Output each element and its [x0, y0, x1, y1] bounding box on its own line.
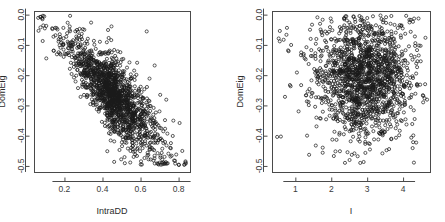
y-tick-label: -0.1: [16, 37, 26, 52]
y-tick-label: 0.0: [16, 8, 26, 20]
x-tick-label: 3: [365, 184, 370, 194]
scatter-panel-intradd: 0.20.40.60.80.0-0.1-0.2-0.3-0.4-0.5Intra…: [0, 0, 222, 222]
x-axis-title: I: [350, 206, 353, 216]
x-tick-label: 0.6: [135, 184, 147, 194]
y-tick-label: -0.2: [254, 68, 264, 83]
x-tick-label: 0.8: [173, 184, 185, 194]
scatter-plot: 0.20.40.60.80.0-0.1-0.2-0.3-0.4-0.5Intra…: [0, 0, 222, 222]
y-tick-label: -0.5: [16, 158, 26, 173]
y-axis-title: DomEig: [0, 75, 7, 107]
y-tick-label: -0.4: [254, 128, 264, 143]
x-axis-title: IntraDD: [96, 206, 128, 216]
x-tick-label: 4: [401, 184, 406, 194]
y-tick-label: -0.3: [254, 98, 264, 113]
x-axis: 1234: [283, 178, 415, 195]
x-tick-label: 2: [329, 184, 334, 194]
y-axis: 0.0-0.1-0.2-0.3-0.4-0.5: [254, 8, 268, 173]
y-tick-label: 0.0: [254, 8, 264, 20]
y-tick-label: -0.4: [16, 128, 26, 143]
y-tick-label: -0.1: [254, 37, 264, 52]
y-tick-label: -0.2: [16, 68, 26, 83]
figure-two-panel-scatter: 0.20.40.60.80.0-0.1-0.2-0.3-0.4-0.5Intra…: [0, 0, 445, 222]
x-tick-label: 1: [293, 184, 298, 194]
scatter-panel-i: 12340.0-0.1-0.2-0.3-0.4-0.5IDomEig: [222, 0, 445, 222]
y-axis-title: DomEig: [235, 75, 245, 107]
scatter-plot: 12340.0-0.1-0.2-0.3-0.4-0.5IDomEig: [222, 0, 445, 222]
data-points: [276, 14, 429, 165]
x-tick-label: 0.4: [97, 184, 109, 194]
data-points: [37, 14, 188, 166]
x-tick-label: 0.2: [59, 184, 71, 194]
y-axis: 0.0-0.1-0.2-0.3-0.4-0.5: [16, 8, 30, 173]
y-tick-label: -0.3: [16, 98, 26, 113]
x-axis: 0.20.40.60.8: [52, 178, 190, 195]
y-tick-label: -0.5: [254, 158, 264, 173]
